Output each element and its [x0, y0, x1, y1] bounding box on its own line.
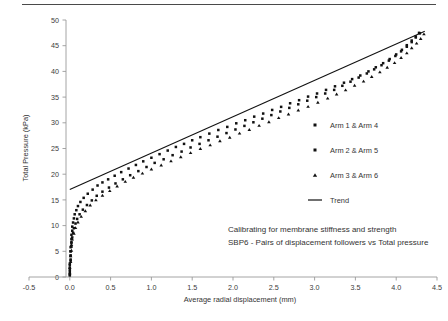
data-point	[378, 70, 382, 73]
data-point	[171, 154, 174, 157]
data-point	[257, 124, 261, 127]
data-point	[94, 198, 98, 201]
data-point	[400, 50, 403, 53]
data-point	[415, 42, 419, 45]
x-tick-label: 0.5	[106, 283, 116, 292]
data-point	[271, 109, 274, 112]
data-point	[267, 120, 271, 123]
data-point	[253, 115, 256, 118]
data-point	[73, 213, 76, 216]
data-point	[70, 241, 73, 244]
trend-line-layer	[70, 31, 425, 189]
data-point	[108, 186, 111, 189]
data-point	[248, 128, 252, 131]
data-point	[228, 136, 232, 139]
data-point	[191, 139, 194, 142]
data-point	[153, 162, 156, 165]
data-point	[217, 129, 220, 132]
trend-line	[70, 31, 425, 189]
data-point	[335, 93, 339, 96]
data-point	[385, 66, 389, 69]
data-point	[69, 269, 72, 272]
data-point	[325, 89, 328, 92]
data-point	[132, 176, 136, 179]
data-point	[370, 75, 374, 78]
data-point	[198, 143, 201, 146]
data-point	[280, 106, 283, 109]
data-point	[252, 121, 255, 124]
data-point	[422, 32, 426, 35]
data-point	[95, 195, 98, 198]
data-point	[226, 126, 229, 129]
y-tick-label: 15	[51, 196, 59, 205]
data-point	[208, 143, 212, 146]
data-point	[316, 101, 320, 104]
data-point	[306, 105, 310, 108]
x-tick-label: 1.5	[187, 283, 197, 292]
data-point	[150, 157, 153, 160]
data-point	[113, 174, 116, 177]
legend-item-4[interactable]: Trend	[308, 196, 349, 205]
data-point	[349, 80, 352, 83]
data-point	[79, 201, 82, 204]
data-point	[388, 59, 391, 62]
data-point	[82, 208, 85, 211]
legend-item-2[interactable]: Arm 2 & Arm 5	[314, 146, 379, 155]
data-point	[68, 271, 72, 274]
x-tick-label: 1.0	[146, 283, 156, 292]
data-point	[415, 36, 418, 39]
data-point	[341, 85, 344, 88]
y-tick-label: 45	[51, 41, 59, 50]
legend-item-3[interactable]: Arm 3 & Arm 6	[313, 171, 378, 180]
y-tick-label: 20	[51, 170, 59, 179]
data-point	[189, 151, 193, 154]
data-point	[225, 132, 228, 135]
data-point	[270, 114, 273, 117]
data-point	[162, 158, 165, 161]
data-point	[238, 132, 242, 135]
legend-label: Arm 1 & Arm 4	[330, 121, 378, 130]
data-point	[399, 56, 403, 59]
x-axis-tick-group: -0.50.00.51.01.52.02.53.03.54.04.5	[23, 277, 442, 292]
x-axis-title: Average radial displacement (mm)	[184, 295, 296, 304]
legend-marker-swatch	[313, 173, 317, 176]
data-point	[91, 188, 94, 191]
scatter-plot-canvas: 05101520253035404550 -0.50.00.51.01.52.0…	[0, 0, 448, 321]
data-point	[344, 88, 348, 91]
data-point	[166, 149, 169, 152]
y-axis-tick-group: 05101520253035404550	[51, 16, 66, 282]
y-axis-title: Total Pressure (kPa)	[21, 115, 30, 182]
data-point	[353, 84, 357, 87]
data-point	[316, 92, 319, 95]
data-point	[306, 99, 309, 102]
y-tick-label: 50	[51, 16, 59, 25]
data-point	[129, 174, 132, 177]
data-point	[76, 218, 79, 221]
data-point	[343, 81, 346, 84]
chart-figure: 05101520253035404550 -0.50.00.51.01.52.0…	[0, 0, 448, 321]
data-point	[410, 41, 413, 44]
data-point	[69, 254, 73, 257]
data-point	[115, 185, 119, 188]
y-tick-label: 10	[51, 221, 59, 230]
data-point	[189, 146, 192, 149]
legend-item-1[interactable]: Arm 1 & Arm 4	[314, 121, 379, 130]
data-point	[91, 199, 94, 202]
data-point	[78, 213, 81, 216]
x-tick-label: 3.0	[310, 283, 320, 292]
x-tick-label: 2.5	[269, 283, 279, 292]
data-point	[406, 45, 409, 48]
data-point	[145, 166, 148, 169]
data-point	[287, 113, 291, 116]
data-point	[82, 197, 85, 200]
data-point	[351, 78, 354, 81]
data-point	[334, 85, 337, 88]
data-point	[216, 135, 219, 138]
data-point	[235, 122, 238, 125]
data-point	[234, 128, 237, 131]
data-point	[307, 95, 310, 98]
data-point	[296, 109, 300, 112]
data-point	[101, 194, 105, 197]
data-point	[297, 103, 300, 106]
data-point	[101, 190, 104, 193]
